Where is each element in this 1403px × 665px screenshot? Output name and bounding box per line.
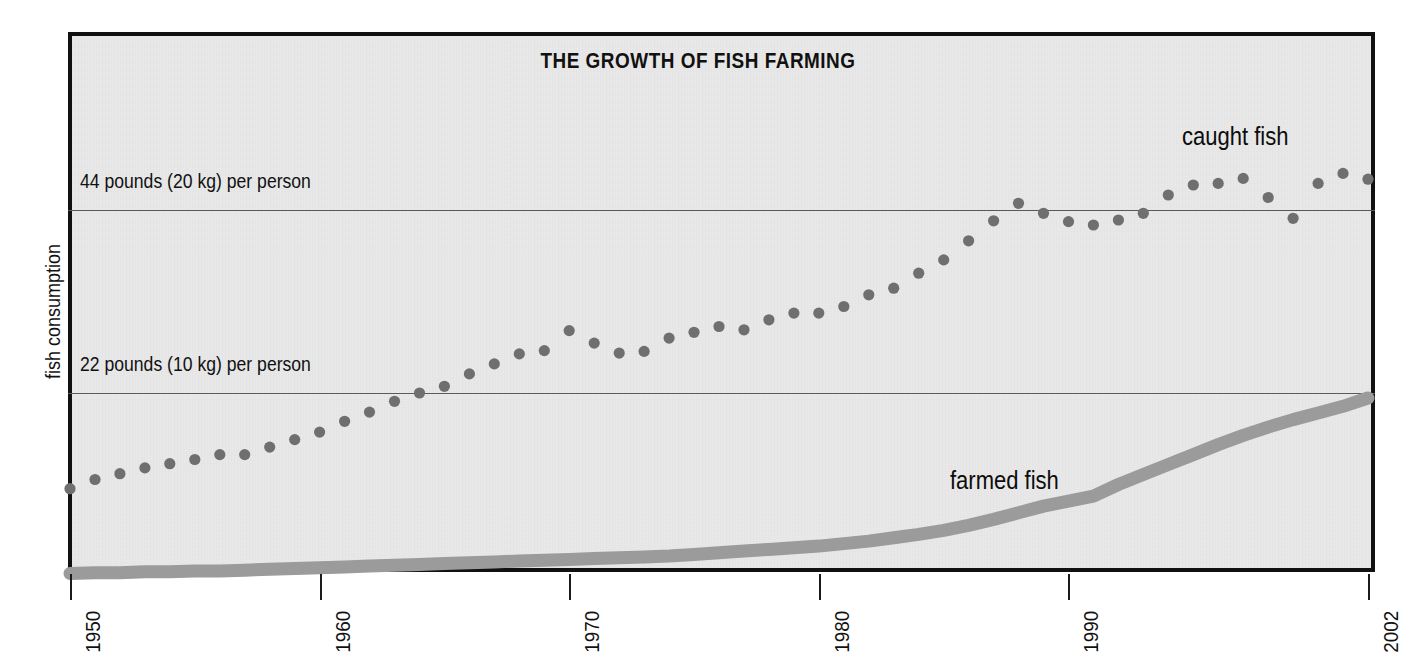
x-tick-1950	[70, 574, 72, 600]
x-tick-label-1990: 1990	[1079, 611, 1103, 653]
series-label-farmed-fish: farmed fish	[950, 466, 1059, 495]
x-tick-label-1950: 1950	[81, 611, 105, 653]
x-tick-label-2002: 2002	[1379, 611, 1403, 653]
chart-title: THE GROWTH OF FISH FARMING	[98, 48, 1299, 74]
series-label-caught-fish: caught fish	[1182, 122, 1288, 151]
gridline-44-pounds	[68, 210, 1375, 211]
paper-texture	[72, 36, 1371, 568]
x-tick-label-1970: 1970	[580, 611, 604, 653]
gridline-label-lower: 22 pounds (10 kg) per person	[80, 353, 311, 376]
gridline-22-pounds	[68, 393, 1375, 394]
plot-area	[68, 32, 1375, 572]
x-tick-1960	[320, 574, 322, 600]
gridline-label-upper: 44 pounds (20 kg) per person	[80, 170, 311, 193]
x-tick-label-1960: 1960	[331, 611, 355, 653]
x-tick-1970	[569, 574, 571, 600]
x-tick-1990	[1068, 574, 1070, 600]
y-axis-label: fish consumption	[42, 222, 65, 402]
x-tick-1980	[819, 574, 821, 600]
x-tick-label-1980: 1980	[830, 611, 854, 653]
x-tick-2002	[1368, 574, 1370, 600]
